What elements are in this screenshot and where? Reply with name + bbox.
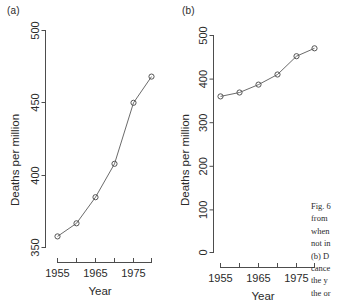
- caption-line: Fig. 6: [311, 200, 350, 212]
- panel-b-y-ticklabels: 500 400 300 200 100 0: [197, 26, 209, 255]
- caption-line: (b) D: [311, 250, 350, 262]
- panel-a-y-axis-title: Deaths per million: [9, 114, 21, 206]
- panel-a-data-series: [55, 74, 154, 239]
- caption-line: the or: [311, 287, 350, 299]
- panel-b-series-line: [221, 48, 315, 96]
- panel-b-xticklabel-1975: 1975: [284, 272, 308, 284]
- panel-a-x-axis-title: Year: [88, 285, 111, 297]
- panel-a-series-line: [58, 77, 152, 237]
- panel-a-series-markers: [55, 74, 154, 239]
- panel-a-yticklabel-450: 450: [29, 93, 41, 111]
- panel-b-yticklabel-300: 300: [197, 114, 209, 132]
- caption-line-italic: the y: [311, 274, 350, 286]
- panel-label-a: (a): [7, 5, 20, 16]
- caption-line: not in: [311, 237, 350, 249]
- panel-a-xticklabel-1965: 1965: [83, 267, 107, 279]
- panel-b-x-axis: [220, 263, 315, 268]
- panel-b-xticklabel-1965: 1965: [246, 272, 270, 284]
- panel-a-y-axis: [42, 30, 46, 248]
- caption-line: when: [311, 225, 350, 237]
- panel-b-yticklabel-400: 400: [197, 70, 209, 88]
- panel-b-x-axis-title: Year: [251, 290, 274, 302]
- panel-b-data-series: [218, 46, 317, 99]
- panel-b-yticklabel-0: 0: [197, 249, 209, 255]
- panel-b-yticklabel-500: 500: [197, 26, 209, 44]
- panel-a-yticklabel-350: 350: [29, 238, 41, 256]
- panel-a-x-ticklabels: 1955 1965 1975: [45, 267, 145, 279]
- panel-b-xticklabel-1955: 1955: [208, 272, 232, 284]
- caption-line: from: [311, 212, 350, 224]
- panel-b-y-axis: [210, 35, 214, 253]
- panel-b-yticklabel-100: 100: [197, 201, 209, 219]
- panel-a-y-ticklabels: 500 450 400 350: [29, 21, 41, 256]
- panel-a-yticklabel-400: 400: [29, 166, 41, 184]
- panel-a-x-axis: [57, 258, 152, 263]
- panel-a-yticklabel-500: 500: [29, 21, 41, 39]
- figure-caption: Fig. 6 from when not in (b) D cance the …: [311, 200, 350, 299]
- panel-a-xticklabel-1975: 1975: [121, 267, 145, 279]
- panel-a: 500 450 400 350 Deaths per million 1955 …: [9, 21, 154, 297]
- figure-two-panel-chart: 500 450 400 350 Deaths per million 1955 …: [0, 0, 350, 305]
- panel-label-b: (b): [182, 5, 195, 16]
- panel-b-yticklabel-200: 200: [197, 157, 209, 175]
- caption-line: cance: [311, 262, 350, 274]
- panel-b-x-ticklabels: 1955 1965 1975: [208, 272, 308, 284]
- panel-b-y-axis-title: Deaths per million: [179, 114, 191, 206]
- panel-b: 500 400 300 200 100 0 Deaths per million…: [179, 26, 317, 302]
- panel-a-xticklabel-1955: 1955: [45, 267, 69, 279]
